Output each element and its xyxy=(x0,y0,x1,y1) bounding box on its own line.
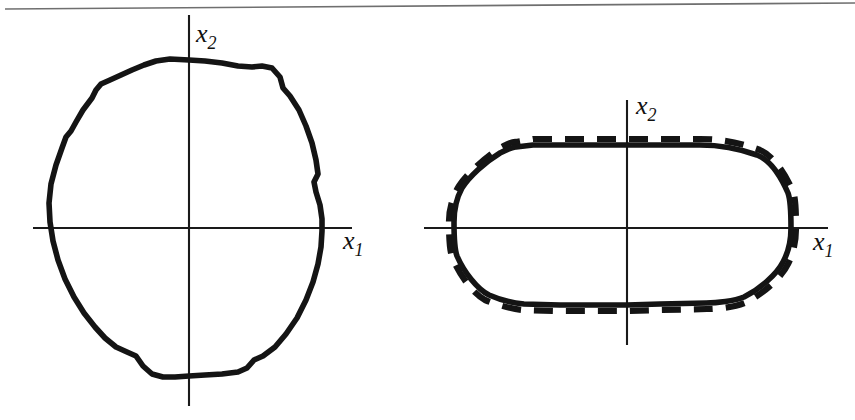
figure-svg: x1 x2 x1 x2 xyxy=(0,0,855,420)
right-panel-x-axis-label: x1 xyxy=(812,227,834,261)
left-panel-y-axis-label: x2 xyxy=(195,19,217,53)
figure-canvas: x1 x2 x1 x2 xyxy=(0,0,855,420)
left-panel: x1 x2 xyxy=(33,15,364,406)
page-rule-line xyxy=(5,3,855,9)
irregular-closed-contour xyxy=(49,59,322,377)
stadium-contour-dashed xyxy=(449,139,796,311)
right-panel: x1 x2 xyxy=(424,91,834,345)
stadium-contour-solid xyxy=(454,145,791,305)
right-panel-y-axis-label: x2 xyxy=(635,91,657,125)
left-panel-x-axis-label: x1 xyxy=(342,226,364,260)
